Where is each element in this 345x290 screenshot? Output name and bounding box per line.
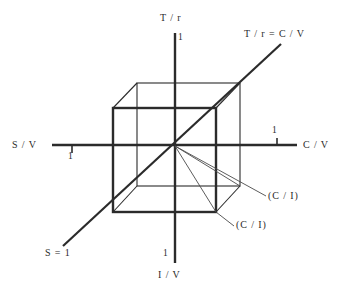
- axis-label-i-over-v: I / V: [158, 270, 181, 280]
- axis-label-t-over-r-equals-c-over-v: T / r = C / V: [244, 29, 305, 39]
- annotation-c-over-i-lower: (C / I): [236, 220, 267, 230]
- axis-tick-t-over-r: 1: [178, 33, 183, 43]
- annotation-c-over-i-upper: (C / I): [268, 191, 299, 201]
- axis-label-c-over-v: C / V: [303, 140, 329, 150]
- axis-label-s-equals-1: S = 1: [45, 248, 71, 258]
- axis-label-s-over-v: S / V: [12, 140, 37, 150]
- axis-tick-c-over-v: 1: [272, 126, 277, 136]
- cube-connecting-edges: [113, 83, 240, 212]
- axis-tick-s-over-v: 1: [68, 152, 73, 162]
- axis-label-t-over-r: T / r: [160, 13, 182, 23]
- axis-tick-i-over-v: 1: [163, 249, 168, 259]
- axonometric-cube-diagram: T / r 1 I / V 1 C / V 1 S / V 1 T / r = …: [0, 0, 345, 290]
